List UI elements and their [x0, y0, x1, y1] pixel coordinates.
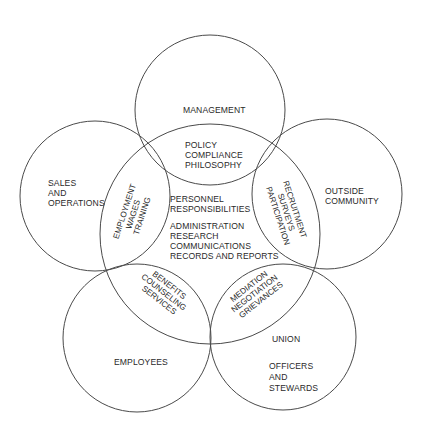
label-employment-wages-training: EMPLOYMENT WAGES TRAINING — [112, 181, 156, 246]
label-outside-community: OUTSIDE COMMUNITY — [325, 186, 379, 206]
label-officers-stewards: OFFICERS AND STEWARDS — [269, 361, 318, 393]
label-administration-block: ADMINISTRATION RESEARCH COMMUNICATIONS R… — [170, 221, 279, 261]
label-benefits-counseling-services: BENEFITS COUNSELING SERVICES — [134, 265, 195, 321]
label-employees: EMPLOYEES — [114, 357, 168, 367]
label-recruitment-surveys-participation: RECRUITMENT SURVEYS PARTICIPATION — [264, 180, 309, 247]
personnel-relationships-diagram: MANAGEMENT SALES AND OPERATIONS OUTSIDE … — [0, 0, 421, 439]
label-mediation-negotiation-grievances: MEDIATION NEGOTIATION GRIEVANCES — [224, 265, 286, 322]
label-sales-operations: SALES AND OPERATIONS — [48, 178, 105, 208]
label-policy-compliance-philosophy: POLICY COMPLIANCE PHILOSOPHY — [185, 140, 245, 170]
label-union: UNION — [272, 334, 300, 344]
circle-employees — [63, 264, 211, 412]
label-management: MANAGEMENT — [183, 105, 246, 115]
label-personnel-responsibilities: PERSONNEL RESPONSIBILITIES — [170, 194, 251, 214]
